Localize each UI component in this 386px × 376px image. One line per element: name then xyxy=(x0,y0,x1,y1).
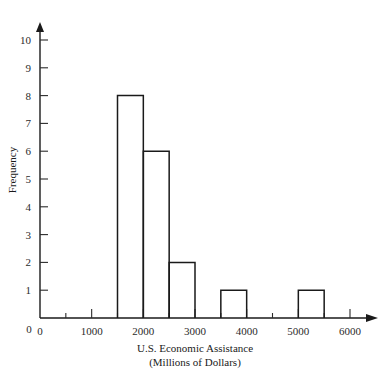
x-tick-label-6000: 6000 xyxy=(339,325,362,337)
x-tick-label-0: 0 xyxy=(37,325,43,337)
x-tick-label-2000: 2000 xyxy=(132,325,155,337)
histogram-bar-0 xyxy=(118,96,144,318)
y-tick-label-8: 8 xyxy=(26,90,32,102)
y-tick-label-2: 2 xyxy=(26,256,32,268)
x-axis-title-line2: (Millions of Dollars) xyxy=(149,356,241,369)
histogram-bar-4 xyxy=(298,290,324,318)
histogram-chart: 0100020003000400050006000012345678910U.S… xyxy=(0,0,386,376)
x-axis-title-line1: U.S. Economic Assistance xyxy=(137,342,253,354)
histogram-bar-2 xyxy=(169,262,195,318)
x-tick-label-1000: 1000 xyxy=(81,325,104,337)
y-axis-title: Frequency xyxy=(6,146,18,193)
y-tick-label-9: 9 xyxy=(26,62,32,74)
y-axis-arrow-icon xyxy=(36,22,44,32)
y-tick-label-5: 5 xyxy=(26,173,32,185)
y-tick-label-1: 1 xyxy=(26,284,32,296)
chart-canvas: 0100020003000400050006000012345678910U.S… xyxy=(0,0,386,376)
y-tick-label-6: 6 xyxy=(26,145,32,157)
histogram-bar-1 xyxy=(143,151,169,318)
y-tick-label-4: 4 xyxy=(26,201,32,213)
y-tick-label-0: 0 xyxy=(26,323,32,335)
x-tick-label-5000: 5000 xyxy=(287,325,310,337)
y-tick-label-3: 3 xyxy=(26,229,32,241)
x-tick-label-4000: 4000 xyxy=(236,325,259,337)
x-tick-label-3000: 3000 xyxy=(184,325,207,337)
y-tick-label-10: 10 xyxy=(20,34,32,46)
x-axis-arrow-icon xyxy=(366,314,378,322)
y-tick-label-7: 7 xyxy=(26,117,32,129)
histogram-bar-3 xyxy=(221,290,247,318)
